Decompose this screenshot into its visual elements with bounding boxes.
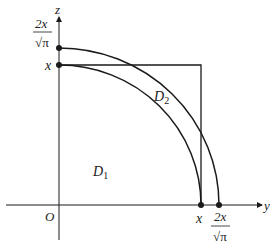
z-tick-outer-numerator: 2x (35, 16, 48, 31)
point-z-outer (56, 45, 62, 51)
region-d1-label: D1 (92, 164, 108, 181)
z-axis-label: z (54, 2, 60, 17)
z-tick-outer-denominator: √π (35, 35, 49, 50)
y-axis-label: y (262, 198, 270, 213)
square-region (59, 65, 201, 205)
outer-quarter-circle (59, 48, 219, 205)
y-tick-outer-denominator: √π (213, 229, 227, 244)
point-y-outer (216, 202, 222, 208)
y-tick-outer-numerator: 2x (214, 209, 227, 224)
region-d2-label: D2 (153, 89, 169, 106)
z-tick-x-label: x (44, 58, 52, 73)
y-tick-x-label: x (195, 211, 203, 226)
diagram-canvas: z y O D1 D2 x 2x √π x 2x √π (0, 0, 274, 250)
origin-label: O (45, 209, 55, 224)
point-z-x (56, 62, 62, 68)
point-y-x (198, 202, 204, 208)
inner-quarter-circle (59, 65, 201, 205)
